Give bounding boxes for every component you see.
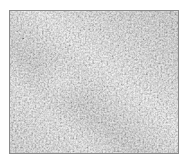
texture-swatch [9, 10, 179, 154]
texture-pattern [10, 11, 178, 153]
